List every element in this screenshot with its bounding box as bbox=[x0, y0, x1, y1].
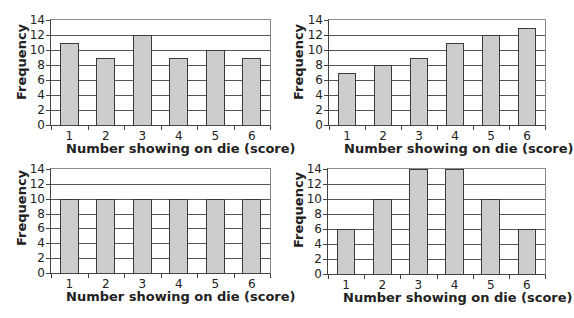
bar-score-3 bbox=[410, 58, 429, 126]
y-tick bbox=[46, 184, 50, 185]
y-axis-title: Frequency bbox=[292, 24, 306, 100]
gridline bbox=[51, 214, 270, 215]
bar-score-6 bbox=[518, 28, 537, 126]
x-axis-title: Number showing on die (score) bbox=[343, 291, 573, 305]
y-tick bbox=[46, 50, 50, 51]
x-tick bbox=[400, 275, 401, 279]
bar-score-6 bbox=[242, 58, 261, 126]
y-tick bbox=[323, 184, 327, 185]
x-tick bbox=[437, 275, 438, 279]
bar-score-2 bbox=[96, 58, 115, 126]
gridline bbox=[51, 228, 270, 229]
y-tick bbox=[46, 258, 50, 259]
gridline bbox=[329, 65, 545, 66]
x-tick bbox=[473, 275, 474, 279]
y-tick-label: 2 bbox=[303, 104, 323, 116]
y-tick bbox=[324, 50, 328, 51]
y-tick-label: 2 bbox=[25, 252, 45, 264]
x-axis-title: Number showing on die (score) bbox=[66, 142, 296, 156]
y-tick bbox=[46, 35, 50, 36]
y-tick-label: 0 bbox=[303, 119, 323, 131]
x-tick bbox=[473, 126, 474, 130]
gridline bbox=[51, 95, 270, 96]
x-tick bbox=[234, 274, 235, 278]
y-tick-label: 2 bbox=[25, 104, 45, 116]
plot-area: 02468101214123456 bbox=[327, 168, 546, 275]
bar-score-6 bbox=[242, 199, 261, 273]
gridline bbox=[51, 184, 270, 185]
gridline bbox=[328, 184, 545, 185]
gridline bbox=[328, 199, 545, 200]
y-tick bbox=[324, 80, 328, 81]
bar-score-2 bbox=[374, 65, 393, 125]
y-tick bbox=[324, 110, 328, 111]
gridline bbox=[328, 244, 545, 245]
x-tick bbox=[545, 275, 546, 279]
bar-score-5 bbox=[206, 199, 225, 273]
x-tick bbox=[124, 274, 125, 278]
y-tick bbox=[323, 169, 327, 170]
y-tick bbox=[46, 80, 50, 81]
y-tick-label: 14 bbox=[303, 14, 323, 26]
plot-area: 02468101214123456 bbox=[50, 19, 271, 126]
bar-score-6 bbox=[518, 229, 537, 274]
bar-score-3 bbox=[133, 199, 152, 273]
gridline bbox=[329, 35, 545, 36]
x-tick bbox=[545, 126, 546, 130]
plot-area: 02468101214123456 bbox=[328, 19, 546, 126]
y-tick-label: 0 bbox=[302, 268, 322, 280]
y-tick-label: 2 bbox=[302, 253, 322, 265]
gridline bbox=[51, 65, 270, 66]
gridline bbox=[328, 259, 545, 260]
y-tick bbox=[324, 65, 328, 66]
y-tick bbox=[46, 110, 50, 111]
x-tick bbox=[197, 274, 198, 278]
gridline bbox=[329, 50, 545, 51]
y-tick bbox=[323, 229, 327, 230]
bar-score-5 bbox=[481, 199, 500, 274]
x-tick bbox=[364, 275, 365, 279]
y-tick-label: 0 bbox=[25, 119, 45, 131]
gridline bbox=[51, 258, 270, 259]
bar-score-1 bbox=[60, 199, 79, 273]
gridline bbox=[328, 214, 545, 215]
gridline bbox=[51, 110, 270, 111]
gridline bbox=[329, 110, 545, 111]
y-tick-label: 6 bbox=[303, 74, 323, 86]
gridline bbox=[51, 80, 270, 81]
x-tick bbox=[51, 126, 52, 130]
x-tick bbox=[509, 126, 510, 130]
x-tick bbox=[161, 126, 162, 130]
y-tick bbox=[46, 199, 50, 200]
y-tick bbox=[46, 125, 50, 126]
bar-score-3 bbox=[409, 169, 428, 274]
x-tick bbox=[401, 126, 402, 130]
x-tick bbox=[329, 126, 330, 130]
x-tick bbox=[365, 126, 366, 130]
gridline bbox=[51, 50, 270, 51]
y-tick bbox=[324, 35, 328, 36]
gridline bbox=[51, 35, 270, 36]
x-tick bbox=[124, 126, 125, 130]
y-tick bbox=[46, 243, 50, 244]
y-tick bbox=[46, 20, 50, 21]
y-tick bbox=[46, 95, 50, 96]
bar-score-1 bbox=[338, 73, 357, 126]
y-tick bbox=[46, 273, 50, 274]
y-tick bbox=[323, 274, 327, 275]
bar-score-4 bbox=[169, 58, 188, 126]
x-tick bbox=[88, 126, 89, 130]
bar-score-4 bbox=[169, 199, 188, 273]
y-tick bbox=[324, 20, 328, 21]
gridline bbox=[329, 95, 545, 96]
y-tick-label: 10 bbox=[303, 44, 323, 56]
gridline bbox=[329, 80, 545, 81]
y-axis-title: Frequency bbox=[15, 24, 29, 100]
x-axis-title: Number showing on die (score) bbox=[344, 142, 574, 156]
bar-score-4 bbox=[446, 43, 465, 126]
x-tick bbox=[270, 126, 271, 130]
y-tick-label: 0 bbox=[25, 267, 45, 279]
x-tick bbox=[509, 275, 510, 279]
bar-score-3 bbox=[133, 35, 152, 125]
y-tick bbox=[324, 95, 328, 96]
